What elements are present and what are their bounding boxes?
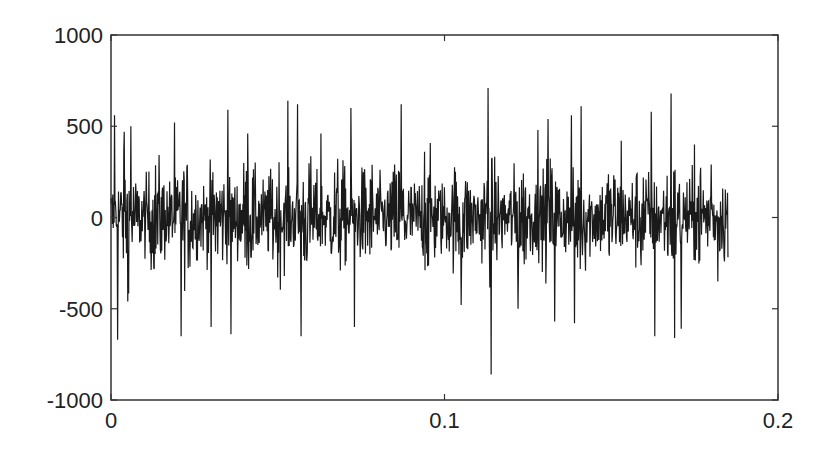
x-tick-label: 0.1 <box>429 408 460 433</box>
y-tick-label: 0 <box>91 206 103 231</box>
y-tick-label: -1000 <box>47 388 103 413</box>
x-tick-label: 0.2 <box>763 408 794 433</box>
chart-figure: -1000-50005001000 00.10.2 <box>0 0 824 461</box>
y-tick-label: 500 <box>66 114 103 139</box>
plot-area <box>111 88 728 375</box>
signal-line <box>111 88 728 375</box>
x-tick-label: 0 <box>105 408 117 433</box>
y-tick-label: -500 <box>59 297 103 322</box>
y-tick-label: 1000 <box>54 23 103 48</box>
